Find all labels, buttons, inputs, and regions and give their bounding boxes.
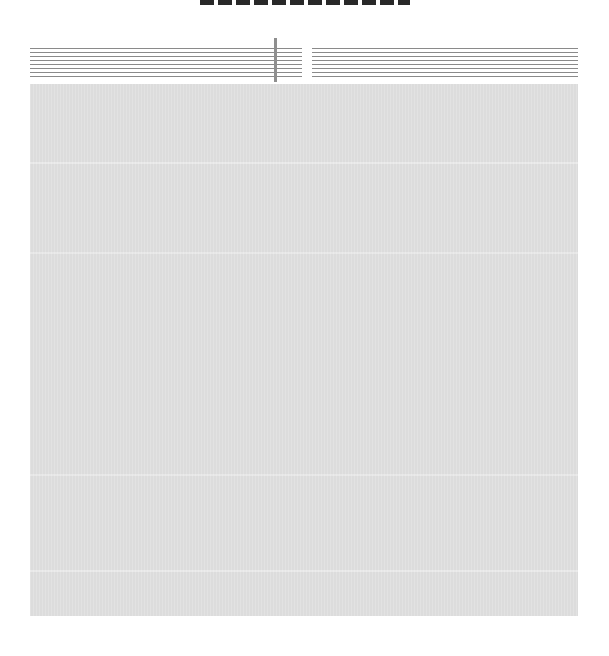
gray-content-block xyxy=(30,84,578,616)
column-divider xyxy=(274,38,277,82)
header-rule-line xyxy=(30,48,302,49)
header-rule-line xyxy=(30,68,302,69)
header-rule-line xyxy=(30,64,302,65)
header-rule-line xyxy=(30,56,302,57)
header-rule-line xyxy=(312,68,578,69)
header-left-column xyxy=(30,48,302,80)
title-glyph-fragments xyxy=(200,0,410,5)
header-rule-line xyxy=(312,52,578,53)
header-rule-line xyxy=(312,76,578,77)
page-title-cropped xyxy=(0,0,609,14)
header-lines-block xyxy=(30,48,578,80)
header-rule-line xyxy=(30,52,302,53)
header-rule-line xyxy=(30,76,302,77)
header-rule-line xyxy=(30,72,302,73)
header-rule-line xyxy=(312,72,578,73)
header-rule-line xyxy=(312,60,578,61)
header-rule-line xyxy=(312,56,578,57)
header-rule-line xyxy=(30,60,302,61)
header-rule-line xyxy=(312,64,578,65)
header-rule-line xyxy=(312,48,578,49)
header-right-column xyxy=(312,48,578,80)
